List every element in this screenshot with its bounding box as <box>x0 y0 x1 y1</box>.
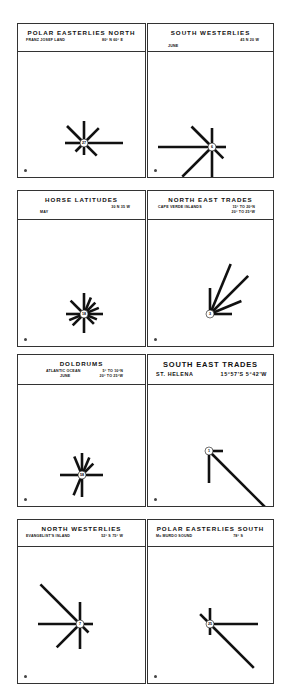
coordinates-label: 52° S 75° W <box>101 534 123 538</box>
panel-header: SOUTH EAST TRADES ST. HELENA 15°57'S 5°4… <box>148 355 273 385</box>
wind-rose-diagram: 3 <box>148 220 273 346</box>
wind-rose-diagram: 58 <box>18 385 145 506</box>
calm-percentage: 3 <box>209 312 211 316</box>
wind-arm-sw <box>182 147 212 177</box>
panel-title: POLAR EASTERLIES SOUTH <box>148 525 273 532</box>
panel-title: NORTH EAST TRADES <box>148 196 273 203</box>
corner-mark-icon <box>24 169 27 173</box>
wind-rose-panel-north-east-trades: NORTH EAST TRADES CAPE VERDE ISLANDS 15°… <box>147 190 274 347</box>
extra-label: JUNE <box>60 374 70 378</box>
wind-arm-se <box>210 624 254 668</box>
wind-rose: 25 <box>148 547 273 683</box>
coordinates-label: 15° TO 20°N <box>232 205 255 209</box>
wind-rose: 18 <box>18 220 145 346</box>
wind-rose-diagram: 1 <box>148 385 273 506</box>
panel-header: POLAR EASTERLIES SOUTH Mc MURDO SOUND 78… <box>148 520 273 547</box>
corner-mark-icon <box>154 498 157 502</box>
wind-rose: 1 <box>148 385 273 506</box>
panel-title: SOUTH EAST TRADES <box>148 360 273 369</box>
coordinates-label: 5° TO 10°N <box>103 369 123 373</box>
coordinates-label: 78° S <box>233 534 243 538</box>
panel-header: SOUTH WESTERLIES 45 N 20 W JUNE <box>148 24 273 52</box>
extra-label-2: 20° TO 25°W <box>100 374 123 378</box>
corner-mark-icon <box>154 169 157 173</box>
wind-rose-panel-south-east-trades: SOUTH EAST TRADES ST. HELENA 15°57'S 5°4… <box>147 354 274 507</box>
panel-header: POLAR EASTERLIES NORTH FRANZ JOSEF LAND … <box>18 24 145 52</box>
calm-percentage: 27 <box>82 141 86 145</box>
wind-rose: 58 <box>18 385 145 506</box>
panel-title: NORTH WESTERLIES <box>18 525 145 532</box>
panel-header: NORTH WESTERLIES EVANGELIST'S ISLAND 52°… <box>18 520 145 547</box>
wind-rose-panel-doldrums: DOLDRUMS ATLANTIC OCEAN 5° TO 10°N JUNE … <box>17 354 146 507</box>
wind-arm-nw <box>40 584 80 624</box>
wind-rose-diagram: 27 <box>18 52 145 177</box>
calm-percentage: 6 <box>211 145 213 149</box>
wind-rose-panel-polar-easterlies-north: POLAR EASTERLIES NORTH FRANZ JOSEF LAND … <box>17 23 146 178</box>
wind-arm-nw <box>192 127 213 148</box>
location-label: MAY <box>40 210 48 214</box>
wind-rose-panel-polar-easterlies-south: POLAR EASTERLIES SOUTH Mc MURDO SOUND 78… <box>147 519 274 684</box>
location-label: EVANGELIST'S ISLAND <box>26 534 70 538</box>
panel-header: NORTH EAST TRADES CAPE VERDE ISLANDS 15°… <box>148 191 273 220</box>
wind-rose: 3 <box>148 220 273 346</box>
calm-percentage: 1 <box>208 449 210 453</box>
panel-header: DOLDRUMS ATLANTIC OCEAN 5° TO 10°N JUNE … <box>18 355 145 385</box>
wind-rose-diagram: 6 <box>148 52 273 177</box>
calm-percentage: 25 <box>208 622 212 626</box>
coordinates-label: 30 N 35 W <box>111 205 130 209</box>
location-label: CAPE VERDE ISLANDS <box>158 205 202 209</box>
wind-rose-panel-south-westerlies: SOUTH WESTERLIES 45 N 20 W JUNE 6 <box>147 23 274 178</box>
panel-title: SOUTH WESTERLIES <box>148 29 273 36</box>
location-label: ST. HELENA <box>156 371 193 377</box>
calm-percentage: 7 <box>79 622 81 626</box>
wind-arm-se <box>209 451 272 506</box>
calm-percentage: 58 <box>80 473 84 477</box>
panel-title: HORSE LATITUDES <box>18 196 145 203</box>
corner-mark-icon <box>24 338 27 342</box>
wind-rose-diagram: 7 <box>18 547 145 683</box>
corner-mark-icon <box>24 675 27 679</box>
wind-rose-diagram: 25 <box>148 547 273 683</box>
wind-rose: 6 <box>148 52 273 177</box>
wind-rose-diagram: 18 <box>18 220 145 346</box>
wind-arm-ne <box>210 276 248 314</box>
calm-percentage: 18 <box>82 312 86 316</box>
wind-rose: 27 <box>18 52 145 177</box>
wind-rose: 7 <box>18 547 145 683</box>
corner-mark-icon <box>154 675 157 679</box>
coordinates-label: 80° N 60° E <box>102 38 123 42</box>
location-label: FRANZ JOSEF LAND <box>26 38 65 42</box>
wind-arm-sw <box>57 624 80 647</box>
location-label: Mc MURDO SOUND <box>156 534 192 538</box>
wind-rose-panel-north-westerlies: NORTH WESTERLIES EVANGELIST'S ISLAND 52°… <box>17 519 146 684</box>
panel-title: POLAR EASTERLIES NORTH <box>18 29 145 36</box>
panel-title: DOLDRUMS <box>18 360 145 367</box>
extra-label: JUNE <box>168 44 178 48</box>
corner-mark-icon <box>24 498 27 502</box>
panel-header: HORSE LATITUDES MAY 30 N 35 W <box>18 191 145 220</box>
location-label: ATLANTIC OCEAN <box>46 369 80 373</box>
corner-mark-icon <box>154 338 157 342</box>
coordinates-label: 15°57'S 5°42'W <box>221 371 267 377</box>
wind-rose-panel-horse-latitudes: HORSE LATITUDES MAY 30 N 35 W 18 <box>17 190 146 347</box>
extra-label: 20° TO 25°W <box>232 210 255 214</box>
coordinates-label: 45 N 20 W <box>240 38 259 42</box>
